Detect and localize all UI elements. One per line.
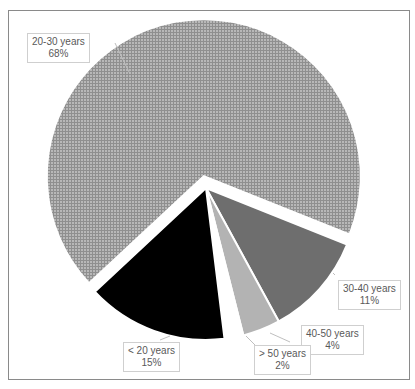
- label-category: > 50 years: [259, 348, 306, 360]
- label-category: 40-50 years: [306, 328, 359, 340]
- label-percent: 15%: [128, 357, 175, 369]
- data-label-20-30: 20-30 years 68%: [27, 33, 90, 63]
- label-percent: 2%: [259, 360, 306, 372]
- data-label-over-50: > 50 years 2%: [254, 345, 311, 375]
- label-percent: 4%: [306, 340, 359, 352]
- leader-line-40-50: [270, 333, 290, 342]
- leader-line-30-40: [333, 273, 335, 275]
- label-category: 30-40 years: [343, 283, 396, 295]
- leader-line-under-20: [160, 336, 170, 340]
- data-label-30-40: 30-40 years 11%: [338, 280, 401, 310]
- label-percent: 11%: [343, 295, 396, 307]
- label-category: < 20 years: [128, 345, 175, 357]
- label-percent: 68%: [32, 48, 85, 60]
- data-label-under-20: < 20 years 15%: [123, 342, 180, 372]
- label-category: 20-30 years: [32, 36, 85, 48]
